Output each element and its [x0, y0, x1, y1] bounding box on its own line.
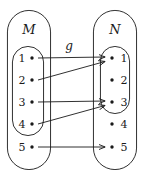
subset-outline-m	[12, 46, 43, 135]
node-dot-m1	[30, 56, 33, 59]
node-label-m1: 1	[19, 52, 26, 65]
mapping-label-g: g	[65, 39, 73, 53]
set-mapping-figure: M N g 1 2 3 4 5 1 2 3 4 5	[0, 0, 144, 180]
arrow-m3-to-n3	[38, 101, 105, 102]
node-label-m2: 2	[19, 74, 26, 87]
set-label-n: N	[108, 22, 121, 37]
node-dot-n5	[110, 145, 113, 148]
node-dot-n3	[110, 100, 113, 103]
node-label-n1: 1	[121, 52, 128, 65]
node-dot-m4	[30, 122, 33, 125]
node-dot-m5	[30, 145, 33, 148]
node-dot-m3	[30, 100, 33, 103]
node-dot-n2	[110, 78, 113, 81]
node-dot-m2	[30, 78, 33, 81]
node-label-n4: 4	[121, 118, 128, 131]
node-label-m5: 5	[19, 141, 26, 154]
arrow-m2-to-n1	[38, 62, 105, 81]
node-dot-n4	[110, 122, 113, 125]
set-label-m: M	[21, 22, 36, 37]
node-label-m3: 3	[19, 96, 26, 109]
arrow-m4-to-n3	[38, 106, 105, 125]
diagram-canvas: M N g 1 2 3 4 5 1 2 3 4 5	[0, 0, 144, 180]
arrow-m1-to-n1	[38, 57, 105, 58]
node-label-n3: 3	[121, 96, 128, 109]
node-label-n5: 5	[121, 141, 128, 154]
node-label-n2: 2	[121, 74, 128, 87]
node-label-m4: 4	[19, 118, 26, 131]
node-dot-n1	[110, 56, 113, 59]
